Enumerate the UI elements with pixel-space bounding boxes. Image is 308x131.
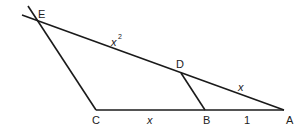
geometry-diagram: E D C B A x 2 x x 1 (0, 0, 308, 131)
line-EC (28, 6, 96, 110)
segment-label-CB: x (146, 114, 153, 126)
point-label-C: C (92, 114, 100, 126)
point-label-A: A (286, 114, 294, 126)
line-EA (22, 15, 284, 110)
segment-label-ED-exponent: 2 (118, 33, 122, 40)
point-label-E: E (38, 8, 45, 20)
point-label-B: B (203, 114, 210, 126)
segment-label-DA: x (237, 81, 244, 93)
segment-label-ED: x (110, 36, 117, 48)
segment-label-BA: 1 (244, 114, 250, 126)
segment-DB (181, 73, 205, 110)
point-label-D: D (176, 58, 184, 70)
